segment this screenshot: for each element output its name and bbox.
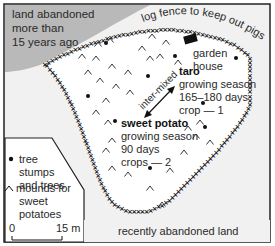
sweet-potato-title: sweet potato: [121, 117, 189, 129]
tree-mark: [234, 56, 238, 60]
legend-tree-icon: [9, 157, 13, 161]
taro-line: 165–180 days: [179, 91, 249, 103]
taro-title: taro: [179, 65, 200, 77]
fence-mark: ×: [44, 62, 50, 70]
legend-mound-line: mounds for: [16, 182, 71, 194]
tree-mark: [173, 54, 177, 58]
tree-mark: [203, 125, 207, 129]
tree-mark: [104, 41, 108, 45]
sweet-potato-line: crops — 2: [121, 156, 171, 168]
legend-mound-line: sweet: [19, 195, 48, 207]
sweet-potato-line: 90 days: [121, 143, 160, 155]
garden-diagram: ××××××××××××××××××××××××××××××××××××××××…: [0, 0, 275, 246]
recent-land-label: recently abandoned land: [118, 225, 238, 237]
old-land-line: more than: [12, 22, 64, 34]
taro-line: crop — 1: [179, 104, 224, 116]
tree-mark: [86, 94, 90, 98]
old-land-line: land abandoned: [12, 8, 95, 20]
scale-end-label: 15 m: [56, 222, 80, 234]
garden-house-line: garden: [193, 47, 227, 59]
old-land-line: 15 years ago: [12, 36, 79, 48]
tree-mark: [146, 74, 150, 78]
legend-tree-line: stumps: [19, 166, 55, 178]
scale-start-label: 0: [9, 222, 15, 234]
taro-line: growing season: [179, 78, 256, 90]
sweet-potato-line: growing season: [121, 130, 198, 142]
legend-mound-line: potatoes: [19, 208, 62, 220]
legend-tree-line: tree: [19, 153, 38, 165]
tree-mark: [113, 119, 117, 123]
